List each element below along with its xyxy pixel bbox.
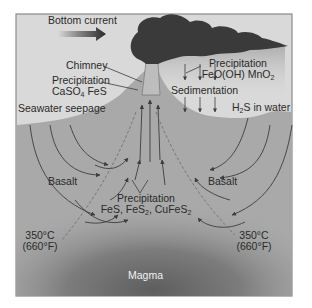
diagram-canvas xyxy=(0,0,312,308)
label-seawater-seepage: Seawater seepage xyxy=(18,103,106,114)
label-chimney: Chimney xyxy=(66,60,107,71)
label-bottom-current: Bottom current xyxy=(48,15,117,26)
label-precip-deep: Precipitation FeS, FeS2, CuFeS2 xyxy=(100,193,192,215)
precip-plume-minerals: FeO(OH) MnO2 xyxy=(198,69,278,80)
label-magma: Magma xyxy=(128,270,163,281)
label-sedimentation: Sedimentation xyxy=(171,85,238,96)
label-precip-plume: Precipitation FeO(OH) MnO2 xyxy=(198,58,278,80)
label-precip-chimney: Precipitation CaSO4 FeS xyxy=(52,75,104,97)
label-basalt-left: Basalt xyxy=(48,176,77,187)
hydrothermal-vent-diagram: Bottom current Chimney Precipitation CaS… xyxy=(0,0,312,308)
precip-chimney-minerals: CaSO4 FeS xyxy=(52,86,104,97)
precip-deep-minerals: FeS, FeS2, CuFeS2 xyxy=(100,204,192,215)
label-basalt-right: Basalt xyxy=(208,176,237,187)
label-temp-left: 350°C (660°F) xyxy=(22,230,58,252)
label-temp-right: 350°C (660°F) xyxy=(236,230,272,252)
label-h2s: H2S in water xyxy=(232,102,290,113)
